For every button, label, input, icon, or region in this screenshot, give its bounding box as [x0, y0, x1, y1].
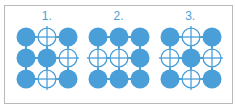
filled-circle-r2c2	[38, 49, 57, 68]
filled-circle-r1c3	[202, 28, 221, 47]
circle-solid	[181, 49, 200, 68]
circle-solid	[109, 70, 128, 89]
crossed-circle-r1c2	[36, 26, 58, 48]
filled-circle-r2c1	[17, 49, 36, 68]
circle-solid	[17, 28, 36, 47]
circle-solid	[59, 70, 78, 89]
circle-groups-row: 1.2.3.	[5, 6, 232, 103]
group-label-2: 2.	[113, 10, 123, 23]
circle-solid	[160, 70, 179, 89]
circle-solid	[109, 28, 128, 47]
circle-grid-canvas-3	[158, 25, 223, 90]
circle-group-3: 3.	[158, 10, 223, 90]
filled-circle-r1c3	[59, 28, 78, 47]
circle-grid-canvas-1	[14, 25, 79, 90]
filled-circle-r2c3	[131, 49, 150, 68]
filled-circle-r1c3	[131, 28, 150, 47]
filled-circle-r3c1	[17, 70, 36, 89]
circle-solid	[160, 28, 179, 47]
circle-solid	[131, 70, 150, 89]
circle-solid	[17, 70, 36, 89]
circle-solid	[88, 70, 107, 89]
group-label-1: 1.	[42, 10, 52, 23]
crossed-circle-r3c2	[180, 68, 202, 90]
filled-circle-r3c3	[202, 70, 221, 89]
filled-circle-r3c3	[131, 70, 150, 89]
filled-circle-r1c2	[109, 28, 128, 47]
circle-grid-canvas-2	[86, 25, 151, 90]
filled-circle-r3c2	[109, 70, 128, 89]
circle-solid	[202, 28, 221, 47]
crossed-circle-r3c2	[36, 68, 58, 90]
filled-circle-r2c2	[181, 49, 200, 68]
crossed-circle-r2c1	[159, 47, 181, 69]
filled-circle-r3c1	[160, 70, 179, 89]
figure-frame: 1.2.3.	[4, 5, 233, 104]
circle-solid	[17, 49, 36, 68]
circle-group-1: 1.	[14, 10, 79, 90]
circle-solid	[131, 28, 150, 47]
filled-circle-r3c1	[88, 70, 107, 89]
crossed-circle-r2c3	[57, 47, 79, 69]
filled-circle-r3c3	[59, 70, 78, 89]
circle-grid-1	[14, 25, 79, 90]
circle-solid	[131, 49, 150, 68]
filled-circle-r1c1	[160, 28, 179, 47]
circle-solid	[202, 70, 221, 89]
circle-solid	[59, 28, 78, 47]
circle-grid-3	[158, 25, 223, 90]
group-label-3: 3.	[185, 10, 195, 23]
circle-grid-2	[86, 25, 151, 90]
crossed-circle-r1c2	[180, 26, 202, 48]
crossed-circle-r2c2	[108, 47, 130, 69]
crossed-circle-r2c1	[87, 47, 109, 69]
filled-circle-r1c1	[17, 28, 36, 47]
circle-solid	[38, 49, 57, 68]
circle-group-2: 2.	[86, 10, 151, 90]
crossed-circle-r2c3	[201, 47, 223, 69]
circle-solid	[88, 28, 107, 47]
filled-circle-r1c1	[88, 28, 107, 47]
